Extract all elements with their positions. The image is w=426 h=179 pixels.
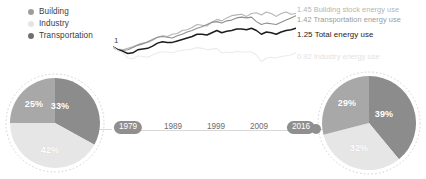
pie-chart-2016: 39% 32% 29% bbox=[316, 70, 422, 176]
timeline-pill-start[interactable]: 1979 bbox=[114, 121, 142, 134]
end-label-industry: 0.92 Industry energy use bbox=[297, 52, 380, 61]
timeline-tick-2009: 2009 bbox=[250, 122, 268, 131]
pie-1979-pct-transportation: 25% bbox=[25, 99, 44, 109]
index-line-chart bbox=[113, 2, 296, 64]
end-label-building: 1.45 Building stock energy use bbox=[297, 5, 399, 14]
series-layer bbox=[113, 12, 296, 62]
line-series-total-energy-use bbox=[113, 28, 296, 53]
pie-chart-1979: 33% 42% 25% bbox=[4, 72, 106, 174]
end-label-transportation: 1.42 Transportation energy use bbox=[297, 15, 401, 24]
end-label-total: 1.25 Total energy use bbox=[297, 30, 373, 39]
legend-dot-transportation-icon bbox=[28, 33, 34, 39]
legend-dot-industry-icon bbox=[28, 21, 34, 27]
pie-2016-pct-industry: 32% bbox=[350, 143, 369, 153]
pie-2016-pct-building: 39% bbox=[375, 109, 394, 119]
pie-1979-pct-industry: 42% bbox=[41, 145, 60, 155]
pie-2016-svg bbox=[316, 70, 422, 176]
pie-1979-svg bbox=[4, 72, 106, 174]
line-series-transportation-energy-use bbox=[113, 16, 296, 51]
legend-dot-building-icon bbox=[28, 9, 34, 15]
timeline-tick-1989: 1989 bbox=[164, 122, 182, 131]
timeline-tick-1999: 1999 bbox=[207, 122, 225, 131]
legend-label-industry: Industry bbox=[39, 18, 69, 29]
pie-2016-slices bbox=[322, 76, 416, 170]
pie-2016-connector-knob bbox=[311, 124, 321, 134]
legend-label-transportation: Transportation bbox=[39, 30, 93, 41]
legend-label-building: Building bbox=[39, 6, 69, 17]
pie-1979-pct-building: 33% bbox=[51, 101, 70, 111]
legend: Building Industry Transportation bbox=[28, 6, 93, 42]
infographic-root: Building Industry Transportation 1 1.45 … bbox=[0, 0, 426, 179]
legend-item-transportation[interactable]: Transportation bbox=[28, 30, 93, 41]
pie-2016-pct-transportation: 29% bbox=[338, 98, 357, 108]
legend-item-building[interactable]: Building bbox=[28, 6, 93, 17]
timeline-axis: 1979 1989 1999 2009 2016 bbox=[110, 122, 318, 144]
legend-item-industry[interactable]: Industry bbox=[28, 18, 93, 29]
